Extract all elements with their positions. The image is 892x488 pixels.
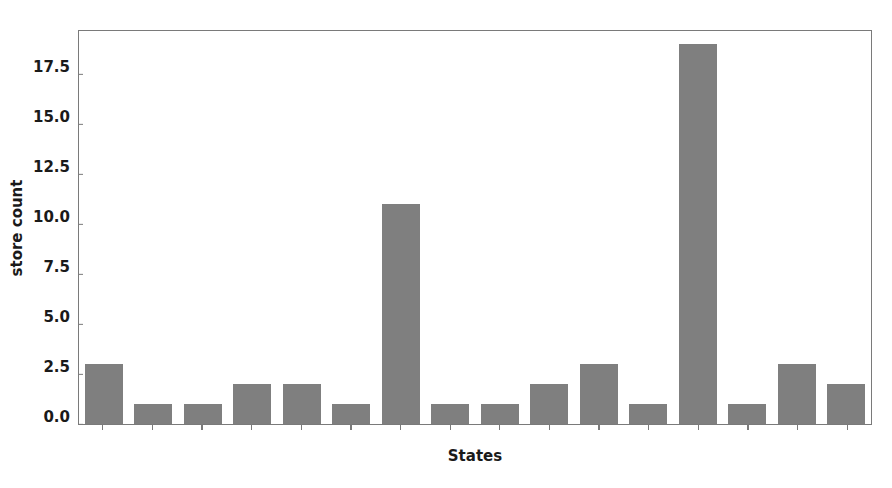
y-axis-tick: 10.0 — [33, 215, 79, 234]
x-axis-tick-mark — [747, 425, 748, 430]
y-axis-tick-label: 5.0 — [43, 310, 79, 325]
y-axis-label-text: store count — [8, 179, 26, 276]
x-axis-tick-mark — [847, 425, 848, 430]
bar — [233, 384, 271, 424]
x-axis-tick-mark — [549, 425, 550, 430]
x-axis-tick — [282, 425, 320, 430]
bars-container — [79, 31, 871, 424]
x-axis-tick — [481, 425, 519, 430]
bar — [134, 404, 172, 424]
x-axis-tick — [828, 425, 866, 430]
x-axis-tick — [580, 425, 618, 430]
y-axis-tick-label: 0.0 — [43, 410, 79, 425]
x-axis-tick — [779, 425, 817, 430]
y-axis-tick-label: 15.0 — [33, 110, 79, 125]
bar — [85, 364, 123, 424]
y-axis-tick-label: 17.5 — [33, 60, 79, 75]
y-axis-tick: 0.0 — [43, 415, 79, 434]
x-axis-tick-mark — [598, 425, 599, 430]
x-axis-tick — [233, 425, 271, 430]
x-axis-tick-mark — [400, 425, 401, 430]
x-axis-tick-mark — [450, 425, 451, 430]
y-axis-tick: 17.5 — [33, 65, 79, 84]
y-axis-label: store count — [6, 30, 28, 425]
plot-axes: 0.02.55.07.510.012.515.017.5 — [78, 30, 872, 425]
x-axis-tick-mark — [648, 425, 649, 430]
x-axis-tick — [332, 425, 370, 430]
bar — [481, 404, 519, 424]
bar — [778, 364, 816, 424]
x-axis-tick — [431, 425, 469, 430]
x-axis-tick-mark — [698, 425, 699, 430]
bar — [827, 384, 865, 424]
y-axis-tick-label: 10.0 — [33, 210, 79, 225]
bar-chart-figure: store count 0.02.55.07.510.012.515.017.5… — [0, 0, 892, 488]
bar — [629, 404, 667, 424]
y-axis-tick: 12.5 — [33, 165, 79, 184]
bar — [679, 44, 717, 424]
x-axis-tick-mark — [152, 425, 153, 430]
x-axis-tick — [382, 425, 420, 430]
x-axis-tick-mark — [201, 425, 202, 430]
x-axis-tick-mark — [102, 425, 103, 430]
bar — [332, 404, 370, 424]
y-axis-tick: 2.5 — [43, 365, 79, 384]
x-axis-tick-mark — [301, 425, 302, 430]
x-axis-tick — [84, 425, 122, 430]
x-axis-tick-mark — [350, 425, 351, 430]
bar — [580, 364, 618, 424]
x-axis-tick-mark — [251, 425, 252, 430]
x-axis-tick — [630, 425, 668, 430]
bar — [431, 404, 469, 424]
y-axis-tick: 7.5 — [43, 265, 79, 284]
y-axis-tick-label: 7.5 — [43, 260, 79, 275]
y-axis-tick-label: 2.5 — [43, 360, 79, 375]
x-axis-tick — [679, 425, 717, 430]
x-axis-tick — [530, 425, 568, 430]
bar — [382, 204, 420, 424]
x-axis-ticks — [78, 425, 872, 435]
y-axis-tick-label: 12.5 — [33, 160, 79, 175]
x-axis-tick — [133, 425, 171, 430]
bar — [283, 384, 321, 424]
x-axis-label: States — [78, 447, 872, 465]
x-axis-tick-mark — [797, 425, 798, 430]
y-axis-tick: 5.0 — [43, 315, 79, 334]
bar — [184, 404, 222, 424]
bar — [728, 404, 766, 424]
x-axis-tick-mark — [499, 425, 500, 430]
y-axis-tick: 15.0 — [33, 115, 79, 134]
bar — [530, 384, 568, 424]
x-axis-tick — [183, 425, 221, 430]
x-axis-tick — [729, 425, 767, 430]
